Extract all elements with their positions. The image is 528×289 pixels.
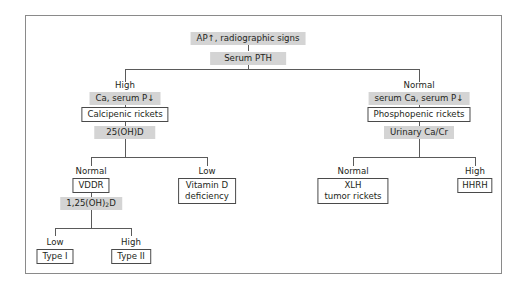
- vitd-branch-label-low: Low: [197, 166, 218, 177]
- hhrh-branch-label-high: High: [463, 166, 487, 177]
- vitamin-d-deficiency-node: Vitamin D deficiency: [178, 178, 236, 204]
- vddr-branch-label-normal: Normal: [73, 166, 108, 177]
- 25ohd-test-node: 25(OH)D: [94, 126, 155, 139]
- type1-node: Type I: [36, 249, 73, 264]
- 125ohd-test-node: 1,25(OH)2D: [60, 197, 122, 210]
- xlh-branch-label-normal: Normal: [335, 166, 370, 177]
- vitd-line1: Vitamin D: [185, 180, 229, 191]
- hhrh-node: HHRH: [457, 178, 492, 193]
- calcipenic-rickets-node: Calcipenic rickets: [81, 107, 168, 122]
- left-finding-node: Ca, serum P↓: [90, 92, 161, 105]
- xlh-line2: tumor rickets: [324, 191, 381, 202]
- serum-pth-node: Serum PTH: [210, 52, 286, 65]
- 125ohd-prefix: 1,25(OH): [66, 198, 105, 208]
- xlh-line1: XLH: [324, 180, 381, 191]
- left-branch-label-high: High: [113, 80, 137, 91]
- root-node: AP↑, radiographic signs: [191, 32, 306, 45]
- phosphopenic-rickets-node: Phosphopenic rickets: [367, 107, 470, 122]
- 125ohd-suffix: D: [109, 198, 116, 208]
- urinary-ca-cr-test-node: Urinary Ca/Cr: [384, 126, 454, 139]
- vddr-node: VDDR: [72, 178, 109, 193]
- type1-branch-label-low: Low: [45, 237, 66, 248]
- right-branch-label-normal: Normal: [401, 80, 436, 91]
- type2-node: Type II: [111, 249, 151, 264]
- xlh-tumor-rickets-node: XLH tumor rickets: [317, 178, 388, 204]
- right-finding-node: serum Ca, serum P↓: [369, 92, 470, 105]
- vitd-line2: deficiency: [185, 191, 229, 202]
- type2-branch-label-high: High: [119, 237, 143, 248]
